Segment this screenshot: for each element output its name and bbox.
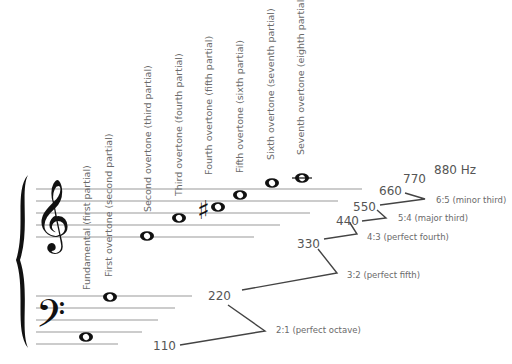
harmonic-series-diagram: 𝄞 𝄢 ♯ Fundamental (first partial) First …: [0, 0, 512, 364]
ratio-octave: 2:1 (perfect octave): [276, 325, 361, 335]
bass-clef-icon: 𝄢: [36, 291, 66, 345]
sharp-icon: ♯: [197, 195, 210, 225]
note-partial-4: [172, 213, 186, 223]
label-partial-1: Fundamental (first partial): [81, 165, 92, 290]
note-partial-7: [265, 178, 279, 188]
freq-550: 550: [353, 200, 376, 214]
note-partial-3: [140, 231, 154, 241]
ratio-minor-third: 6:5 (minor third): [436, 195, 506, 205]
ratio-fifth: 3:2 (perfect fifth): [347, 270, 420, 280]
label-partial-6: Fifth overtone (sixth partial): [234, 40, 245, 173]
freq-880: 880 Hz: [434, 163, 476, 177]
note-partial-5: [211, 202, 225, 212]
label-partial-3: Second overtone (third partial): [142, 65, 153, 212]
freq-330: 330: [297, 237, 320, 251]
ratio-fourth: 4:3 (perfect fourth): [367, 232, 449, 242]
treble-clef-icon: 𝄞: [34, 178, 71, 254]
label-partial-4: Third overtone (fourth partial): [173, 53, 184, 197]
freq-110: 110: [153, 339, 176, 353]
interval-labels: 2:1 (perfect octave) 3:2 (perfect fifth)…: [276, 195, 506, 335]
interval-connectors: [180, 193, 425, 345]
freq-440: 440: [336, 214, 359, 228]
label-partial-5: Fourth overtone (fifth partial): [203, 36, 214, 175]
freq-770: 770: [403, 172, 426, 186]
note-partial-2: [103, 292, 117, 302]
label-partial-7: Sixth overtone (seventh partial): [265, 8, 276, 160]
note-fundamental: [79, 332, 93, 342]
label-partial-2: First overtone (second partial): [103, 133, 114, 277]
label-partial-8: Seventh overtone (eighth partial): [295, 0, 306, 155]
note-partial-8: [292, 173, 312, 183]
partial-labels: Fundamental (first partial) First overto…: [81, 0, 306, 290]
brace-icon: [16, 175, 28, 348]
freq-220: 220: [208, 289, 231, 303]
note-partial-6: [233, 190, 247, 200]
ratio-major-third: 5:4 (major third): [398, 213, 468, 223]
freq-660: 660: [379, 184, 402, 198]
